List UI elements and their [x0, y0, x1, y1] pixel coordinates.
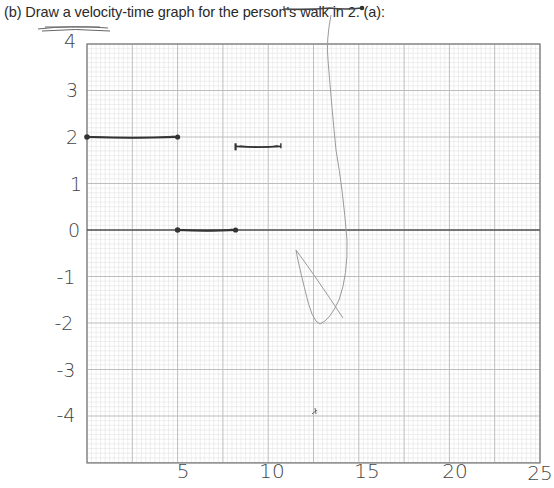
segment-3 [236, 143, 281, 150]
y-tick-label: 1 [70, 173, 82, 195]
x-tick-label: 10 [259, 459, 284, 483]
y-tick-label: -3 [57, 359, 76, 381]
x-tick-label: 5 [177, 459, 190, 483]
x-tick-label: 20 [442, 459, 467, 483]
y-tick-label: -4 [57, 404, 76, 426]
stray-mark [312, 408, 317, 414]
velocity-time-graph[interactable]: 510152025 43210-1-2-3-4 [0, 0, 554, 488]
y-tick-label: 0 [68, 219, 80, 241]
x-tick-label: 15 [354, 459, 379, 483]
y-tick-label: -2 [55, 312, 74, 334]
x-tick-label: 25 [527, 461, 552, 485]
y-axis-labels: 43210-1-2-3-4 [55, 30, 83, 426]
segment-2 [175, 227, 238, 233]
stray-top-stroke [284, 6, 364, 11]
y-tick-label: 4 [64, 30, 76, 52]
y-tick-label: -1 [57, 266, 76, 288]
y-tick-label: 3 [66, 79, 78, 101]
y-tick-label: 2 [66, 126, 78, 148]
